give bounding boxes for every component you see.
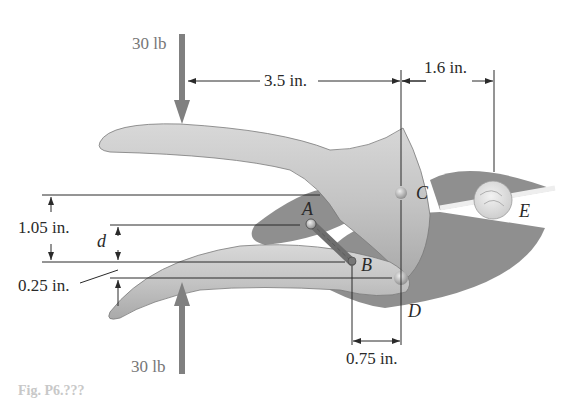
force-label-bottom: 30 lb [131, 358, 165, 375]
point-label-C: C [416, 184, 428, 202]
dim-d: d [97, 232, 106, 250]
figure-caption: Fig. P6.??? [18, 384, 85, 398]
point-label-E: E [519, 202, 530, 220]
force-label-top: 30 lb [132, 35, 166, 52]
dim-0-75: 0.75 in. [346, 350, 397, 367]
force-arrow-top [174, 34, 190, 124]
dim-1-6: 1.6 in. [424, 59, 467, 76]
pin-C [395, 187, 407, 199]
point-label-D: D [408, 302, 421, 320]
point-label-A: A [302, 200, 313, 218]
pin-A [306, 219, 316, 229]
dim-3-5: 3.5 in. [264, 72, 307, 89]
dim-1-05: 1.05 in. [18, 219, 69, 236]
point-label-B: B [361, 256, 372, 274]
dim-0-25: 0.25 in. [18, 277, 69, 294]
pin-B [348, 257, 356, 265]
